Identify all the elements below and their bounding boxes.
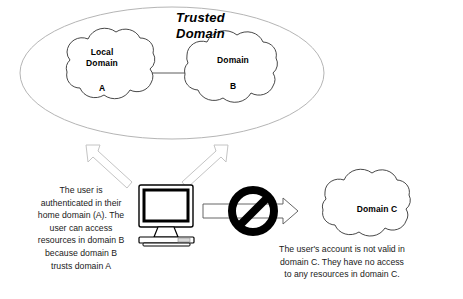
- cloud-c-line1: Domain C: [330, 204, 424, 215]
- arrow-up-right-icon: [182, 145, 228, 188]
- cloud-label-domain-b-letter: B: [190, 81, 276, 92]
- diagram-canvas: Trusted Domain Local Domain A Domain B D…: [0, 0, 463, 299]
- cloud-b-line2: B: [190, 81, 276, 92]
- arrow-up-left-icon: [86, 145, 132, 188]
- cloud-label-local-domain-a: Local Domain: [63, 47, 141, 70]
- caption-left-line-5: resources in domain B: [22, 234, 140, 247]
- cloud-label-domain-b: Domain: [190, 55, 276, 66]
- cloud-a-line2: Domain: [63, 58, 141, 69]
- trusted-domain-title-line2: Domain: [148, 26, 253, 42]
- trusted-domain-title-line1: Trusted: [148, 10, 253, 26]
- caption-left-line-7: trusts domain A: [22, 260, 140, 273]
- caption-left-line-6: because domain B: [22, 247, 140, 260]
- caption-left-line-4: user can access: [22, 222, 140, 235]
- desktop-computer-icon: [139, 185, 194, 246]
- caption-left-line-1: The user is: [22, 184, 140, 197]
- caption-left-line-3: home domain (A). The: [22, 209, 140, 222]
- arrow-right-icon: [203, 198, 298, 224]
- caption-left: The user is authenticated in their home …: [22, 184, 140, 272]
- trusted-domain-title: Trusted Domain: [148, 10, 253, 43]
- cloud-a-line1: Local: [63, 47, 141, 58]
- cloud-b-line1: Domain: [190, 55, 276, 66]
- cloud-label-domain-c: Domain C: [330, 204, 424, 215]
- caption-right-line-3: to any resources in domain C.: [233, 268, 451, 281]
- caption-left-line-2: authenticated in their: [22, 197, 140, 210]
- caption-right-line-1: The user's account is not valid in: [233, 243, 451, 256]
- cloud-domain-c: [322, 169, 410, 236]
- caption-right: The user's account is not valid in domai…: [233, 243, 451, 281]
- cloud-a-line3: A: [63, 83, 141, 94]
- caption-right-line-2: domain C. They have no access: [233, 256, 451, 269]
- no-entry-prohibited-icon: [232, 190, 274, 232]
- cloud-label-domain-a-letter: A: [63, 83, 141, 94]
